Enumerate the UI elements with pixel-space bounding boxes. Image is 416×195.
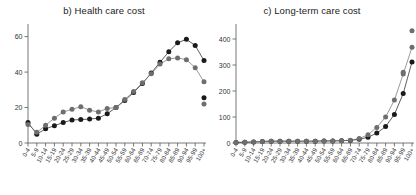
data-point-tail-gray-high — [410, 28, 415, 33]
data-point — [175, 40, 180, 45]
data-point-tail-dark — [202, 95, 207, 100]
y-tick-label: 100 — [219, 114, 231, 121]
y-tick-label: 400 — [219, 36, 231, 43]
data-point — [166, 49, 171, 54]
x-tick-label: 100+ — [402, 146, 415, 162]
data-point — [78, 104, 83, 109]
data-point — [392, 112, 397, 117]
data-point — [43, 123, 48, 128]
data-point — [158, 62, 163, 67]
data-point — [105, 111, 110, 116]
data-point — [339, 138, 344, 143]
series-line-series-gray — [28, 58, 204, 132]
y-tick-label: 200 — [219, 88, 231, 95]
data-point — [87, 117, 92, 122]
data-point — [166, 56, 171, 61]
data-point — [374, 131, 379, 136]
data-point — [383, 124, 388, 129]
data-point — [202, 79, 207, 84]
data-point — [410, 45, 415, 50]
data-point — [87, 108, 92, 113]
y-tick-label: 60 — [15, 33, 23, 40]
data-point-tail-gray-mid — [401, 70, 406, 75]
data-point — [175, 55, 180, 60]
data-point — [392, 98, 397, 103]
data-point — [348, 138, 353, 143]
y-tick-label: 0 — [227, 140, 231, 147]
data-point — [410, 59, 415, 64]
data-point — [278, 139, 283, 144]
series-line-series-dark — [236, 62, 412, 143]
chart-svg-long-term-care-cost: 01002003004000-45-910-1415-1920-2425-293… — [208, 0, 416, 195]
data-point — [96, 116, 101, 121]
data-point — [149, 71, 154, 76]
data-point — [70, 117, 75, 122]
chart-svg-health-care-cost: 02040600-45-910-1415-1920-2425-2930-3435… — [0, 0, 208, 195]
data-point — [374, 125, 379, 130]
data-point — [357, 136, 362, 141]
data-point — [184, 57, 189, 62]
x-tick-label: 100+ — [194, 146, 207, 162]
data-point — [61, 120, 66, 125]
data-point — [322, 138, 327, 143]
data-point — [78, 117, 83, 122]
data-point — [26, 122, 31, 127]
data-point — [61, 109, 66, 114]
data-point — [295, 139, 300, 144]
data-point — [184, 37, 189, 42]
plot-area-health-care-cost: 02040600-45-910-1415-1920-2425-2930-3435… — [0, 0, 208, 195]
data-point — [383, 115, 388, 120]
data-point — [140, 80, 145, 85]
data-point — [366, 132, 371, 137]
y-tick-label: 40 — [15, 69, 23, 76]
y-tick-label: 300 — [219, 62, 231, 69]
data-point — [96, 109, 101, 114]
data-point — [105, 106, 110, 111]
y-tick-label: 0 — [19, 140, 23, 147]
data-point — [70, 107, 75, 112]
data-point — [330, 138, 335, 143]
data-point — [122, 97, 127, 102]
data-point-tail-gray — [202, 102, 207, 107]
data-point — [34, 130, 39, 135]
data-point — [202, 58, 207, 63]
data-point — [313, 139, 318, 144]
panel-health-care-cost: b) Health care cost 02040600-45-910-1415… — [0, 0, 208, 195]
data-point — [52, 116, 57, 121]
data-point — [286, 139, 291, 144]
data-point — [234, 140, 239, 145]
figure-panels: b) Health care cost 02040600-45-910-1415… — [0, 0, 416, 195]
data-point — [251, 139, 256, 144]
data-point — [193, 43, 198, 48]
data-point — [131, 89, 136, 94]
data-point — [114, 105, 119, 110]
panel-long-term-care-cost: c) Long-term care cost 01002003004000-45… — [208, 0, 416, 195]
plot-area-long-term-care-cost: 01002003004000-45-910-1415-1920-2425-293… — [208, 0, 416, 195]
data-point — [242, 140, 247, 145]
data-point — [401, 91, 406, 96]
data-point — [269, 139, 274, 144]
data-point — [193, 65, 198, 70]
data-point — [52, 123, 57, 128]
y-tick-label: 20 — [15, 104, 23, 111]
data-point — [304, 139, 309, 144]
data-point — [260, 139, 265, 144]
